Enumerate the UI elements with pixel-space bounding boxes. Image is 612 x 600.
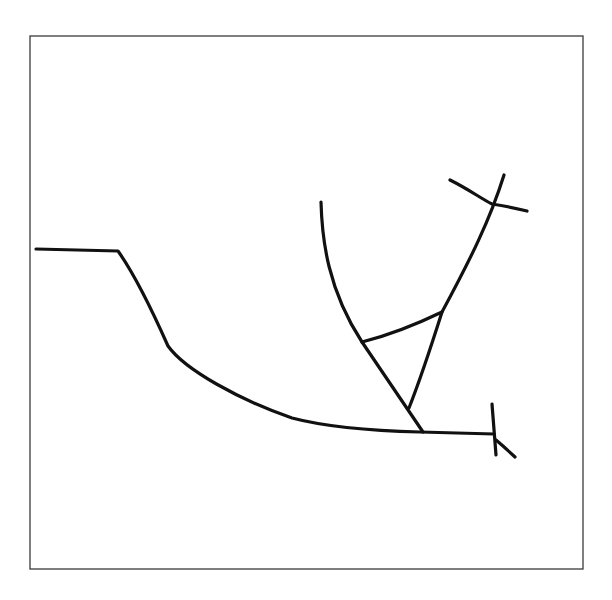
end-tick-vertical <box>492 404 496 455</box>
end-tick-hook <box>496 440 515 457</box>
triangle-top-edge <box>362 312 442 342</box>
diagram-strokes <box>36 175 527 457</box>
inner-arc-left <box>321 202 423 432</box>
outer-arc-right <box>409 175 504 408</box>
left-profile-curve <box>36 249 494 434</box>
line-diagram <box>0 0 612 600</box>
diagram-frame <box>30 36 583 569</box>
cross-bar <box>450 180 527 211</box>
